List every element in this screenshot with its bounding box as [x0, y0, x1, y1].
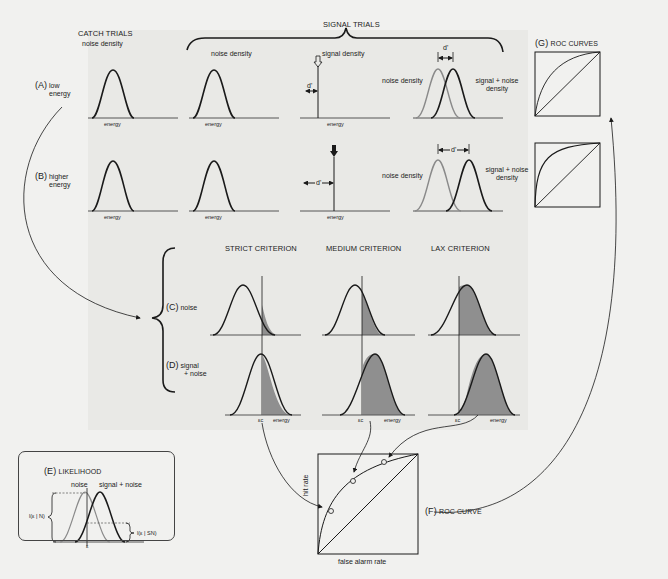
arrow-medium-to-roc [354, 421, 371, 472]
roc-curve-g1 [535, 52, 600, 116]
arrow-strict-to-roc [262, 423, 322, 507]
row-a-catch-noise-plot [88, 70, 178, 118]
row-a-signal-density-label: signal density [322, 50, 364, 58]
row-a-signal-density-plot [300, 56, 390, 118]
row-c-label: (C) noise [166, 303, 197, 312]
energy-label: energy [490, 417, 507, 423]
criterion-label-medium: εc [358, 417, 363, 423]
row-b-overlap-noise-label: noise density [382, 172, 423, 180]
roc-ylabel: hit rate [302, 475, 310, 496]
row-a-overlap-noise-label: noise density [382, 77, 423, 85]
criterion-label-strict: εc [258, 417, 263, 423]
signal-trials-header: SIGNAL TRIALS [323, 20, 380, 29]
row-b-catch-noise-plot [88, 161, 178, 211]
row-a-noise-density-label: noise density [211, 50, 252, 58]
strict-noise-plot [210, 276, 301, 415]
roc-point-lax [382, 460, 387, 465]
strict-signal-plot [225, 354, 301, 415]
energy-label: energy [205, 214, 222, 220]
hollow-arrow-icon [314, 56, 322, 67]
energy-label: energy [104, 121, 121, 127]
energy-label: energy [327, 121, 344, 127]
row-a-label: (A) low energy [35, 81, 70, 98]
row-b-overlap-dprime-label: d' [450, 146, 457, 154]
lax-signal-plot [428, 354, 520, 415]
roc-point-strict [329, 509, 334, 514]
likelihood-epsilon-label: ε [86, 543, 88, 549]
energy-label: energy [205, 121, 222, 127]
energy-label: energy [327, 214, 344, 220]
row-d-label: (D) signal + noise [166, 361, 207, 378]
roc-curve-header: (F) ROC CURVE [425, 506, 482, 516]
likelihood-header: (E) LIKELIHOOD [44, 466, 102, 476]
likelihood-panel [18, 451, 175, 541]
arrow-a-to-criterion [24, 107, 140, 318]
row-b-signal-density-plot [300, 145, 390, 211]
likelihood-ln-label: l(ε | N) [29, 513, 45, 519]
filled-arrow-icon [330, 145, 338, 157]
roc-xlabel: false alarm rate [338, 558, 386, 566]
energy-label: energy [104, 214, 121, 220]
row-b-overlap-sn-label: signal + noisedensity [474, 166, 540, 182]
catch-trials-header: CATCH TRIALS [78, 29, 133, 38]
roc-point-medium [351, 479, 356, 484]
likelihood-lsn-label: l(ε | SN) [137, 530, 156, 536]
row-b-signal-noise-plot [189, 161, 279, 211]
row-b-label: (B) higher energy [35, 172, 70, 189]
roc-curves-header: (G) ROC CURVES [535, 38, 598, 48]
energy-label: energy [384, 417, 401, 423]
row-a-dprime-label: d' [307, 82, 312, 90]
strict-criterion-header: STRICT CRITERION [225, 244, 297, 253]
energy-label: energy [273, 417, 290, 423]
signal-trials-brace [187, 28, 503, 52]
row-a-overlap-sn-label: signal + noisedensity [464, 77, 530, 93]
row-a-overlap-dprime-label: d' [443, 44, 448, 52]
lax-criterion-header: LAX CRITERION [431, 244, 490, 253]
likelihood-noise-label: noise [71, 481, 88, 489]
criterion-label-lax: εc [455, 417, 460, 423]
roc-curve-g2 [535, 143, 600, 207]
roc-curve-f [318, 454, 418, 554]
catch-trials-sub: noise density [82, 40, 123, 48]
arrow-lax-to-roc [389, 415, 478, 457]
row-b-dprime-label: d' [315, 179, 322, 187]
row-a-signal-noise-plot [189, 70, 279, 118]
medium-criterion-header: MEDIUM CRITERION [326, 244, 401, 253]
likelihood-sn-label: signal + noise [99, 481, 142, 489]
medium-signal-plot [322, 354, 415, 415]
